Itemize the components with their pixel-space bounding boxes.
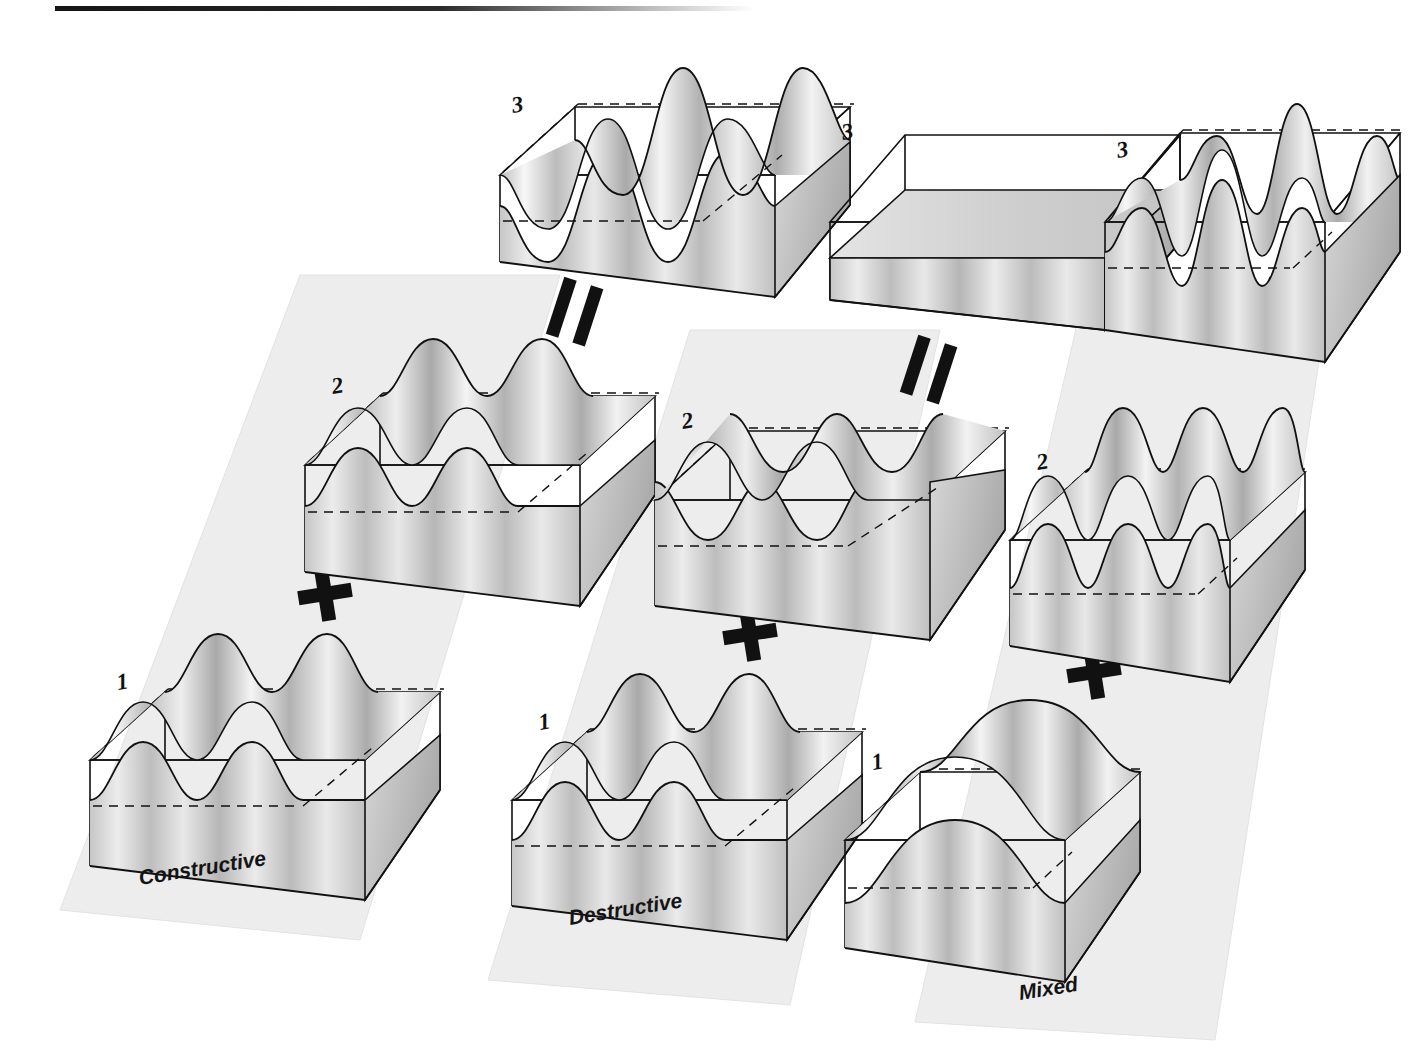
interference-diagram: 1 + 2 <box>0 0 1410 1056</box>
box-number-destructive-1: 1 <box>537 708 553 735</box>
box-mixed-3: 3 <box>1105 104 1404 362</box>
box-number-constructive-1: 1 <box>115 668 131 695</box>
figure-canvas: 1 + 2 <box>0 0 1410 1056</box>
box-number-mixed-3: 3 <box>1114 136 1131 163</box>
box-number-constructive-3: 3 <box>509 91 526 118</box>
box-number-mixed-1: 1 <box>870 748 886 775</box>
box-constructive-3: 3 <box>500 68 854 297</box>
